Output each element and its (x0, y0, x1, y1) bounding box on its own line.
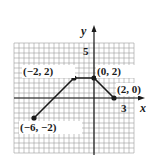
y-tick-label-5: 5 (83, 45, 89, 57)
piecewise-line-graph: x y 3 5 (−2, 2) (0, 2) (2, 0) (−6, −2) (0, 0, 159, 159)
x-axis-arrow-icon (138, 96, 145, 101)
data-point-marker (111, 95, 116, 100)
point-label-d: (−6, −2) (20, 121, 57, 134)
x-axis-label: x (139, 101, 146, 115)
data-point-marker (31, 115, 36, 120)
point-label-c: (2, 0) (117, 83, 141, 96)
point-label-b: (0, 2) (97, 65, 121, 78)
x-tick-label-3: 3 (121, 102, 127, 114)
y-axis-arrow-icon (92, 25, 97, 32)
y-axis-label: y (79, 24, 87, 38)
point-label-a: (−2, 2) (23, 65, 53, 78)
data-point-marker (91, 75, 96, 80)
